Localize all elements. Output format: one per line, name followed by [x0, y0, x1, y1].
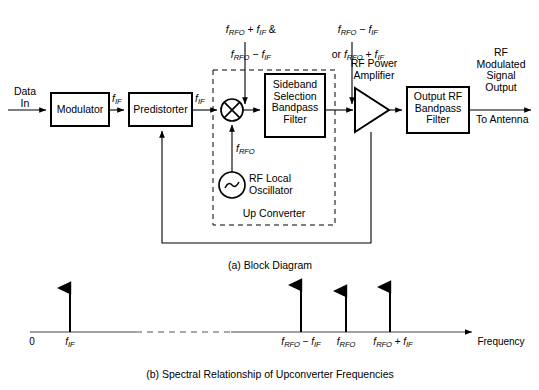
label-up-converter: Up Converter — [243, 208, 305, 220]
spectrum-origin-label: 0 — [29, 336, 35, 347]
annotation-mixer-output-freqs: fRFO + fIF & fRFO − fIF — [214, 12, 276, 75]
spectrum-tick-rfo: fRFO — [337, 336, 356, 349]
figure-upconverter-diagram: Modulator Predistorter SidebandSelection… — [0, 0, 539, 390]
block-predistorter-label: Predistorter — [128, 104, 193, 116]
spectrum-axis-label-frequency: Frequency — [477, 336, 524, 347]
sine-wave-icon — [225, 182, 239, 188]
label-f-rfo: fRFO — [236, 143, 255, 157]
label-rf-modulated-signal-output: RFModulatedSignalOutput — [466, 47, 536, 94]
spectrum-tick-f-if: fIF — [65, 336, 74, 349]
spectrum-tick-rfo-plus-if: fRFO + fIF — [373, 336, 412, 349]
block-modulator-label: Modulator — [50, 104, 110, 116]
caption-spectral-relationship: (b) Spectral Relationship of Upconverter… — [146, 368, 393, 380]
mixer-cross-2 — [224, 102, 240, 118]
amplifier-triangle — [355, 88, 389, 132]
local-oscillator-symbol — [219, 172, 245, 198]
mixer-cross-1 — [224, 102, 240, 118]
block-sideband-filter-label: SidebandSelectionBandpassFilter — [264, 79, 326, 126]
mixer-symbol — [221, 99, 243, 121]
label-to-antenna: To Antenna — [476, 114, 529, 126]
block-output-filter-label: Output RFBandpassFilter — [406, 91, 470, 126]
label-f-if-1: fIF — [112, 93, 121, 107]
label-rf-local-oscillator: RF LocalOscillator — [249, 173, 319, 196]
label-data-in: DataIn — [14, 86, 36, 109]
label-f-if-2: fIF — [195, 93, 204, 107]
spectrum-tick-rfo-minus-if: fRFO − fIF — [281, 336, 320, 349]
annotation-filter-output-freqs: fRFO − fIF or fRFO + fIF — [320, 12, 384, 75]
caption-block-diagram: (a) Block Diagram — [228, 259, 312, 271]
